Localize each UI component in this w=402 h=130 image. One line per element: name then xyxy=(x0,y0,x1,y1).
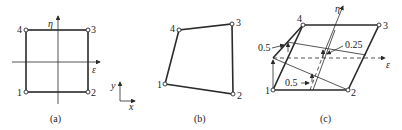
global-axes: y x xyxy=(110,80,135,112)
construction-line xyxy=(313,30,335,90)
quad-element xyxy=(165,24,233,94)
eta-label: η xyxy=(48,18,53,29)
eps-label: ε xyxy=(386,59,390,70)
panel-b: 1 2 3 4 (b) xyxy=(157,17,242,125)
node-label-4: 4 xyxy=(297,13,302,24)
node-label-3: 3 xyxy=(236,17,241,28)
node-1 xyxy=(24,90,28,94)
panel-a: 1 2 3 4 η ε (a) xyxy=(12,16,100,125)
node-4 xyxy=(177,28,181,32)
node-4 xyxy=(24,28,28,32)
node-2 xyxy=(86,90,90,94)
leader-arrow xyxy=(327,46,343,54)
node-3 xyxy=(377,23,381,27)
node-1 xyxy=(163,82,167,86)
caption-b: (b) xyxy=(194,113,206,125)
node-label-1: 1 xyxy=(157,79,162,90)
node-2 xyxy=(346,88,350,92)
annotation-0-25: 0.25 xyxy=(345,39,363,50)
node-label-1: 1 xyxy=(17,87,22,98)
square-element xyxy=(26,30,88,92)
eps-label: ε xyxy=(92,64,96,75)
panel-c: 1 2 3 4 η ε 0.5 0.25 0.5 (c) xyxy=(258,3,390,125)
node-label-4: 4 xyxy=(170,23,175,34)
node-2 xyxy=(231,92,235,96)
y-label: y xyxy=(110,80,116,91)
eta-label: η xyxy=(335,3,340,14)
node-label-1: 1 xyxy=(265,85,270,96)
node-label-2: 2 xyxy=(91,87,96,98)
x-label: x xyxy=(128,101,134,112)
annotation-0-5-left: 0.5 xyxy=(258,42,271,53)
node-3 xyxy=(86,28,90,32)
node-label-3: 3 xyxy=(91,24,96,35)
node-3 xyxy=(230,22,234,26)
caption-a: (a) xyxy=(50,113,61,125)
annotation-0-5-bottom: 0.5 xyxy=(285,77,298,88)
node-label-4: 4 xyxy=(17,24,22,35)
node-label-3: 3 xyxy=(383,20,388,31)
node-1 xyxy=(271,88,275,92)
node-label-2: 2 xyxy=(351,87,356,98)
construction-line xyxy=(273,25,303,58)
caption-c: (c) xyxy=(320,113,331,125)
isoparametric-element-figure: 1 2 3 4 η ε (a) y x 1 2 3 4 (b) xyxy=(0,0,402,130)
node-label-2: 2 xyxy=(237,90,242,101)
